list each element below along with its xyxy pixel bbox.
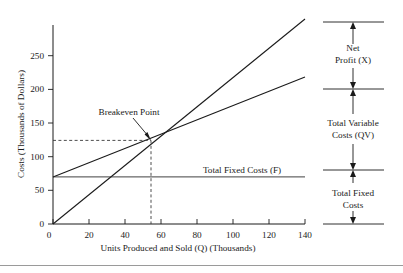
y-tick-label-200: 200 <box>30 84 44 94</box>
y-axis-ticks <box>48 56 53 224</box>
variable-costs-label-line1: Total Variable <box>327 118 378 128</box>
net-profit-label-line1: Net <box>346 43 360 53</box>
y-axis-title: Costs (Thousands of Dollars) <box>16 70 26 178</box>
x-tick-label-0: 0 <box>47 230 52 240</box>
net-profit-label-line2: Profit (X) <box>335 55 371 65</box>
x-axis-title: Units Produced and Sold (Q) (Thousands) <box>101 243 256 253</box>
x-tick-label-140: 140 <box>298 230 312 240</box>
x-tick-label-60: 60 <box>156 230 166 240</box>
variable-costs-arrowhead-up <box>350 89 356 96</box>
x-axis-ticks <box>53 219 305 224</box>
figure-bottom-divider <box>0 265 403 266</box>
y-tick-label-250: 250 <box>30 51 44 61</box>
x-tick-label-20: 20 <box>84 230 94 240</box>
fixed-costs-arrowhead-up <box>350 170 356 177</box>
variable-costs-arrowhead-down <box>350 163 356 170</box>
chart-canvas: 0 50 100 150 200 250 0 20 40 60 80 100 1… <box>0 0 403 273</box>
x-tick-label-120: 120 <box>262 230 276 240</box>
x-tick-label-80: 80 <box>192 230 202 240</box>
x-tick-label-100: 100 <box>226 230 240 240</box>
fixed-costs-arrowhead-down <box>350 217 356 224</box>
y-tick-label-100: 100 <box>30 152 44 162</box>
fixed-costs-label-line2: Costs <box>343 200 364 210</box>
y-tick-label-50: 50 <box>35 185 45 195</box>
breakeven-point-label: Breakeven Point <box>99 107 160 117</box>
total-cost-line <box>53 77 305 177</box>
breakeven-chart-figure: 0 50 100 150 200 250 0 20 40 60 80 100 1… <box>0 0 403 273</box>
total-revenue-line <box>53 19 305 224</box>
y-tick-label-0: 0 <box>39 219 44 229</box>
y-tick-label-150: 150 <box>30 118 44 128</box>
net-profit-arrowhead-up <box>350 22 356 29</box>
fixed-costs-label-line1: Total Fixed <box>332 188 374 198</box>
variable-costs-label-line2: Costs (QV) <box>332 130 374 140</box>
net-profit-arrowhead-down <box>350 82 356 89</box>
total-fixed-costs-inline-label: Total Fixed Costs (F) <box>203 165 281 175</box>
x-tick-label-40: 40 <box>120 230 130 240</box>
